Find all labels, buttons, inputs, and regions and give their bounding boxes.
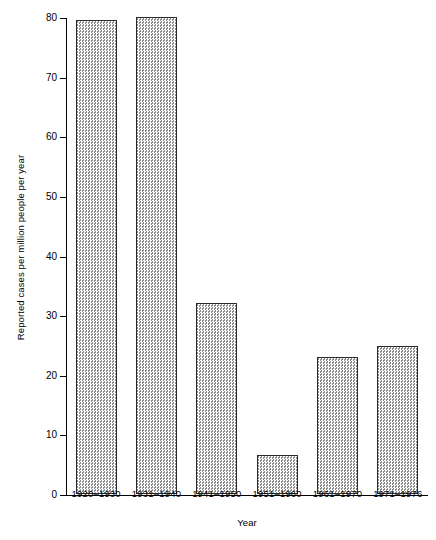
y-tick-label: 70 bbox=[17, 71, 57, 84]
bar bbox=[317, 357, 358, 494]
x-tick-label: 1920–1930 bbox=[66, 487, 126, 500]
y-tick-mark bbox=[60, 376, 66, 377]
x-tick-label: 1931–1940 bbox=[126, 487, 186, 500]
y-tick-mark bbox=[60, 197, 66, 198]
x-tick-label: 1951–1960 bbox=[247, 487, 307, 500]
y-tick-mark bbox=[60, 78, 66, 79]
bar-chart: Reported cases per million people per ye… bbox=[0, 0, 436, 540]
bar bbox=[196, 303, 237, 494]
y-tick-label: 30 bbox=[17, 309, 57, 322]
y-tick-mark bbox=[60, 137, 66, 138]
x-tick-label: 1941–1950 bbox=[187, 487, 247, 500]
x-tick-label: 1971–1976 bbox=[368, 487, 428, 500]
bar bbox=[377, 346, 418, 494]
y-tick-mark bbox=[60, 316, 66, 317]
y-tick-label: 50 bbox=[17, 190, 57, 203]
x-tick-label: 1961–1970 bbox=[307, 487, 367, 500]
y-tick-mark bbox=[60, 257, 66, 258]
y-tick-label: 10 bbox=[17, 428, 57, 441]
y-tick-label: 20 bbox=[17, 369, 57, 382]
bar bbox=[136, 17, 177, 494]
y-tick-label: 40 bbox=[17, 250, 57, 263]
y-tick-label: 0 bbox=[17, 488, 57, 501]
plot-area: 01020304050607080 bbox=[66, 18, 428, 495]
bar bbox=[76, 20, 117, 494]
y-tick-mark bbox=[60, 18, 66, 19]
y-axis-line bbox=[66, 18, 67, 496]
x-axis-title: Year bbox=[66, 516, 428, 529]
y-tick-label: 60 bbox=[17, 130, 57, 143]
y-tick-mark bbox=[60, 435, 66, 436]
y-tick-label: 80 bbox=[17, 11, 57, 24]
